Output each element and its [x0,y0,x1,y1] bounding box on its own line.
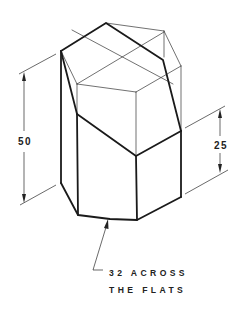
dimension-cut-height: 25 [185,106,228,194]
construction-lines [61,23,181,156]
arrowhead-down-icon [218,164,222,173]
dimension-label-25: 25 [214,140,228,151]
arrowhead-up-icon [22,72,26,81]
leader-arrowhead-icon [104,219,109,229]
note-line-2: THE FLATS [109,285,186,295]
dimension-label-50: 50 [18,136,32,147]
note-line-1: 32 ACROSS [109,268,188,278]
leader-note: 32 ACROSS THE FLATS [93,219,188,295]
technical-drawing: 50 25 32 ACROSS THE FLATS [0,0,240,312]
prism-outline [61,23,181,220]
dimension-overall-height: 50 [18,54,56,205]
arrowhead-up-icon [218,109,222,118]
